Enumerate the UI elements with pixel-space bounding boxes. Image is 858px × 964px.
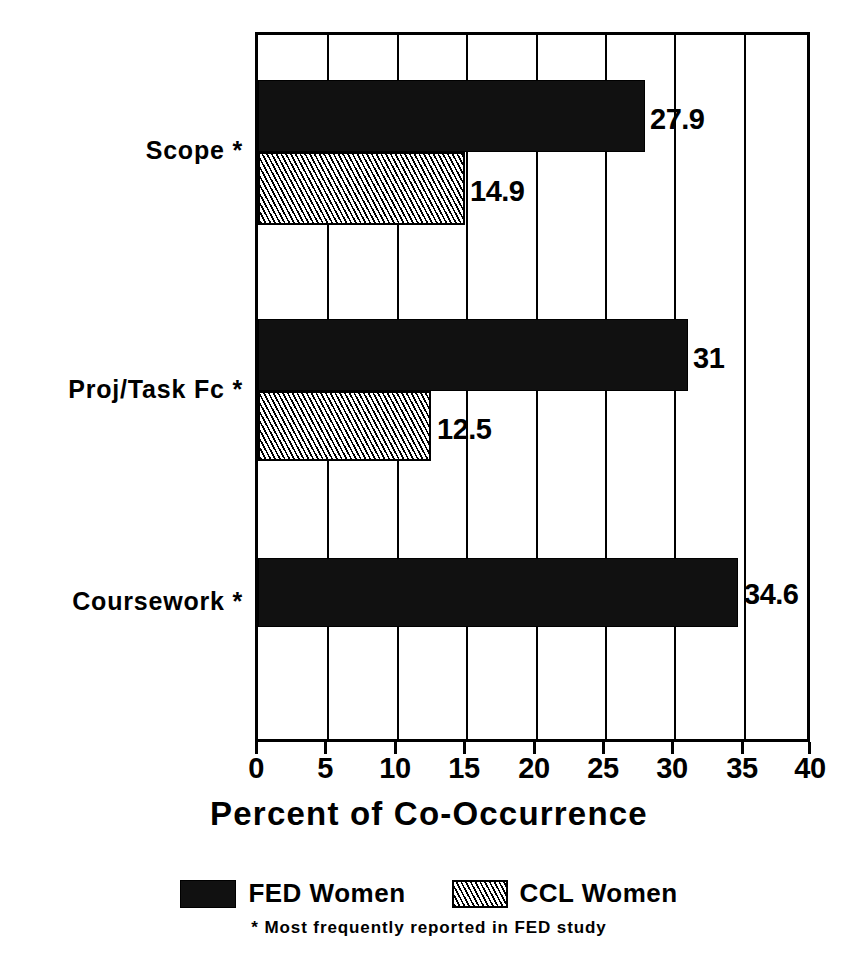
category-label-proj-task-fc: Proj/Task Fc * — [0, 375, 243, 404]
legend-entry-fed-women: FED Women — [180, 878, 405, 909]
category-label-scope: Scope * — [0, 136, 243, 165]
bar-proj-task-fc-ccl-women — [258, 391, 431, 461]
bar-scope-fed-women — [258, 80, 645, 152]
tick-label-40: 40 — [780, 752, 840, 785]
tick-label-10: 10 — [365, 752, 425, 785]
bar-value-scope-fed-women: 27.9 — [650, 103, 704, 136]
x-axis-title: Percent of Co-Occurrence — [0, 795, 858, 833]
chart-legend: FED Women CCL Women — [0, 878, 858, 909]
bar-proj-task-fc-fed-women — [258, 319, 688, 391]
tick-label-20: 20 — [504, 752, 564, 785]
bar-coursework-fed-women — [258, 558, 738, 627]
tick-label-0: 0 — [226, 752, 286, 785]
tick-label-25: 25 — [573, 752, 633, 785]
plot-area — [255, 32, 810, 742]
bar-chart-figure: 27.9 14.9 31 12.5 34.6 Scope * Proj/Task… — [0, 0, 858, 964]
hatched-swatch-icon — [452, 880, 508, 908]
tick-label-15: 15 — [434, 752, 494, 785]
category-label-coursework: Coursework * — [0, 587, 243, 616]
solid-black-swatch-icon — [180, 880, 236, 908]
tick-label-30: 30 — [642, 752, 702, 785]
legend-label-fed-women: FED Women — [248, 878, 405, 909]
bar-value-coursework-fed-women: 34.6 — [744, 578, 798, 611]
legend-entry-ccl-women: CCL Women — [452, 878, 678, 909]
tick-label-35: 35 — [712, 752, 772, 785]
gridline-35 — [744, 35, 746, 739]
tick-label-5: 5 — [295, 752, 355, 785]
bar-value-proj-task-fc-ccl-women: 12.5 — [437, 413, 491, 446]
legend-label-ccl-women: CCL Women — [520, 878, 678, 909]
bar-value-scope-ccl-women: 14.9 — [470, 175, 524, 208]
bar-value-proj-task-fc-fed-women: 31 — [693, 342, 724, 375]
chart-footnote: * Most frequently reported in FED study — [0, 918, 858, 938]
bar-scope-ccl-women — [258, 152, 465, 225]
